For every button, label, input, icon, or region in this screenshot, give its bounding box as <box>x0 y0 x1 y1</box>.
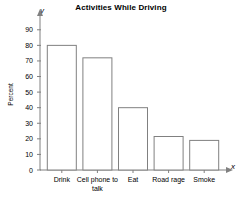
y-tick-label: 0 <box>11 167 33 174</box>
bar <box>190 140 219 170</box>
y-tick-label: 20 <box>11 135 33 142</box>
bars-group <box>47 45 218 170</box>
y-axis-arrow <box>37 9 43 16</box>
x-tick-label: Smoke <box>182 176 226 185</box>
x-axis-arrow <box>226 167 233 173</box>
bar <box>47 45 76 170</box>
bar <box>119 108 148 170</box>
bar <box>83 58 112 170</box>
y-tick-label: 40 <box>11 104 33 111</box>
bar <box>154 137 183 170</box>
y-tick-label: 80 <box>11 42 33 49</box>
bar-chart: Activities While Driving y x Percent 010… <box>0 0 242 216</box>
y-tick-label: 60 <box>11 73 33 80</box>
y-tick-label: 50 <box>11 89 33 96</box>
y-tick-label: 90 <box>11 26 33 33</box>
y-tick-label: 10 <box>11 151 33 158</box>
y-tick-label: 70 <box>11 57 33 64</box>
y-tick-label: 30 <box>11 120 33 127</box>
